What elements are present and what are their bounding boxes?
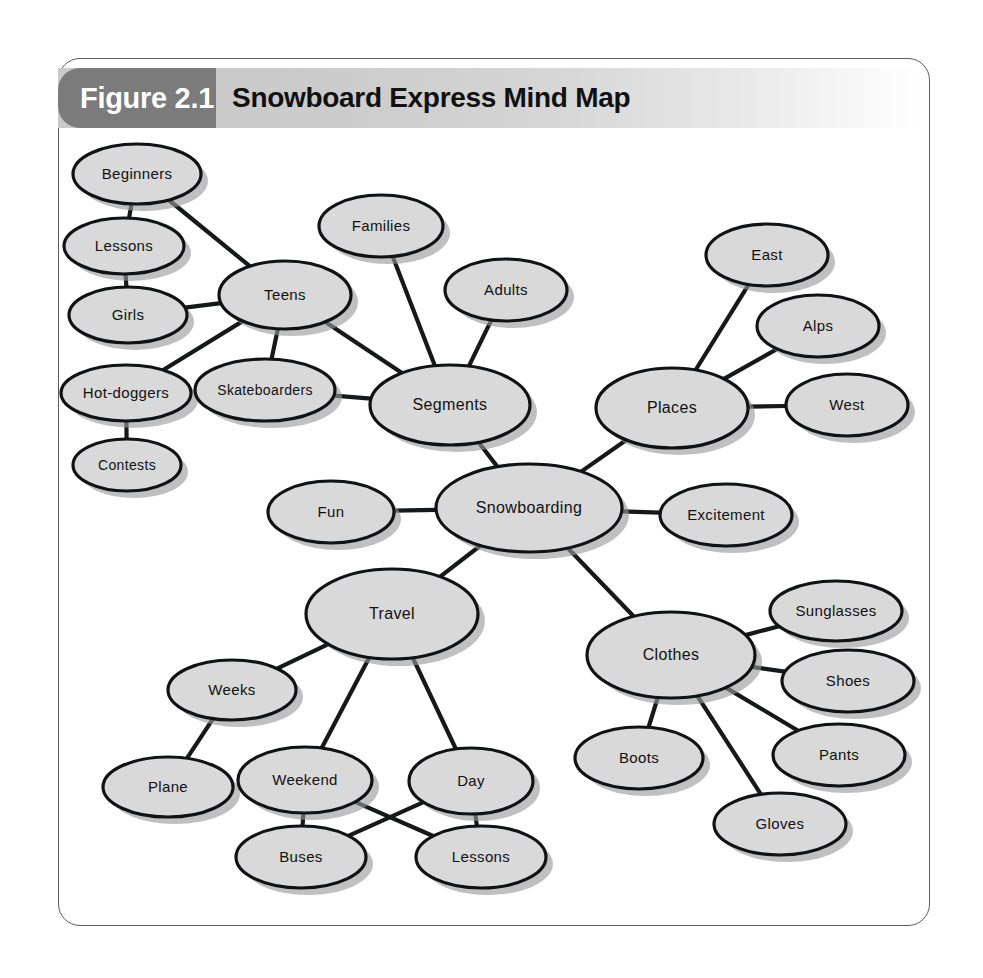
mind-map-edge [440, 546, 480, 577]
node-label: Weekend [272, 771, 338, 788]
node-label: East [751, 246, 783, 263]
mind-map-node-hot-doggers[interactable]: Hot-doggers [61, 365, 191, 421]
mind-map-node-lessons-bot[interactable]: Lessons [416, 826, 546, 888]
mind-map-node-beginners[interactable]: Beginners [73, 144, 201, 204]
mind-map-node-segments[interactable]: Segments [370, 365, 530, 445]
mind-map-node-adults[interactable]: Adults [445, 259, 567, 321]
mind-map-node-sunglasses[interactable]: Sunglasses [770, 581, 902, 641]
node-label: Buses [279, 848, 322, 865]
mind-map-node-plane[interactable]: Plane [103, 757, 233, 817]
mind-map-node-contests[interactable]: Contests [73, 439, 181, 491]
node-label: Shoes [826, 672, 870, 689]
node-label: Lessons [95, 237, 153, 254]
mind-map-node-fun[interactable]: Fun [268, 481, 394, 543]
mind-map-node-excitement[interactable]: Excitement [660, 484, 792, 546]
mind-map-node-teens[interactable]: Teens [219, 261, 351, 329]
node-label: Gloves [756, 815, 805, 832]
node-label: Pants [819, 746, 859, 763]
mind-map-edge [724, 349, 777, 379]
node-label: Beginners [102, 165, 173, 182]
figure-number-label: Figure 2.1 [58, 82, 214, 115]
mind-map-node-travel[interactable]: Travel [306, 569, 478, 659]
mind-map-svg: SnowboardingSegmentsFamiliesAdultsTeensS… [58, 130, 930, 926]
mind-map-edge [581, 440, 626, 472]
node-label: Families [352, 217, 411, 234]
mind-map-edge [413, 658, 456, 749]
mind-map-edge [697, 696, 761, 795]
node-label: Travel [369, 605, 415, 622]
node-label: Boots [619, 749, 659, 766]
node-label: West [829, 396, 865, 413]
mind-map-node-girls[interactable]: Girls [69, 287, 187, 343]
node-label: Plane [148, 778, 188, 795]
node-label: Excitement [687, 506, 765, 523]
node-label: Skateboarders [217, 382, 313, 398]
mind-map-node-lessons-left[interactable]: Lessons [64, 218, 184, 274]
mind-map-node-west[interactable]: West [786, 374, 908, 436]
node-label: Contests [98, 457, 156, 473]
node-label: Weeks [208, 681, 255, 698]
mind-map-node-weeks[interactable]: Weeks [168, 660, 296, 720]
mind-map-edge [746, 626, 780, 635]
mind-map-node-pants[interactable]: Pants [773, 724, 905, 786]
node-label: Snowboarding [476, 499, 583, 516]
mind-map-edge [325, 322, 402, 373]
mind-map-node-east[interactable]: East [706, 224, 828, 286]
node-label: Day [457, 772, 485, 789]
figure-title: Snowboard Express Mind Map [232, 68, 630, 128]
mind-map-node-clothes[interactable]: Clothes [587, 612, 755, 698]
mind-map-node-snowboarding[interactable]: Snowboarding [436, 464, 622, 552]
figure-container: Figure 2.1 Snowboard Express Mind Map Sn… [0, 0, 983, 978]
mind-map-node-weekend[interactable]: Weekend [238, 747, 372, 813]
figure-number-badge: Figure 2.1 [58, 68, 216, 128]
node-label: Teens [264, 286, 306, 303]
mind-map-node-buses[interactable]: Buses [236, 826, 366, 888]
mind-map-edge [277, 644, 328, 668]
mind-map-edge [394, 510, 436, 511]
node-label: Girls [112, 306, 145, 323]
mind-map-canvas: SnowboardingSegmentsFamiliesAdultsTeensS… [58, 130, 930, 926]
mind-map-node-gloves[interactable]: Gloves [714, 793, 846, 855]
mind-map-edge [568, 548, 634, 617]
mind-map-node-shoes[interactable]: Shoes [782, 650, 914, 712]
mind-map-node-families[interactable]: Families [319, 195, 443, 257]
node-label: Clothes [643, 646, 700, 663]
mind-map-node-alps[interactable]: Alps [757, 295, 879, 357]
node-label: Sunglasses [795, 602, 876, 619]
mind-map-node-day[interactable]: Day [409, 748, 533, 814]
mind-map-edge [355, 802, 433, 836]
mind-map-edge [748, 406, 786, 407]
mind-map-node-skateboarders[interactable]: Skateboarders [195, 359, 335, 421]
mind-map-edge [393, 256, 435, 365]
mind-map-node-places[interactable]: Places [596, 368, 748, 448]
node-label: Adults [484, 281, 528, 298]
mind-map-edge [187, 719, 213, 759]
node-label: Fun [318, 503, 345, 520]
mind-map-edge [696, 285, 749, 370]
mind-map-edge [469, 320, 491, 366]
mind-map-edge [322, 657, 370, 748]
node-label: Hot-doggers [83, 384, 169, 401]
mind-map-node-boots[interactable]: Boots [575, 727, 703, 789]
node-label: Places [647, 399, 697, 416]
node-label: Lessons [452, 848, 510, 865]
mind-map-edge [185, 303, 221, 308]
node-label: Alps [803, 317, 834, 334]
node-label: Segments [413, 396, 488, 413]
